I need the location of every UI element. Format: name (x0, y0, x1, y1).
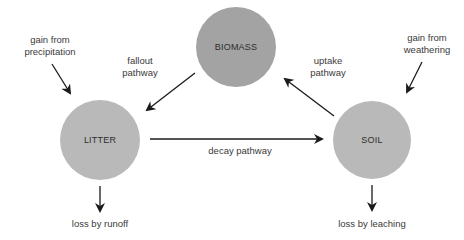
precipitation-arrow (52, 64, 70, 93)
weathering-arrow (407, 62, 422, 92)
litter-label: LITTER (84, 135, 116, 145)
soil-label: SOIL (361, 135, 382, 145)
uptake-pathway-label: uptake pathway (298, 55, 358, 79)
litter-node: LITTER (60, 100, 140, 180)
decay-pathway-label: decay pathway (190, 145, 290, 157)
weathering-input-label: gain from weathering (392, 32, 462, 56)
fallout-pathway-label: fallout pathway (110, 55, 170, 79)
leaching-output-label: loss by leaching (322, 218, 422, 230)
biomass-node: BIOMASS (196, 7, 276, 87)
soil-node: SOIL (333, 101, 411, 179)
uptake-arrow (285, 79, 334, 116)
biomass-label: BIOMASS (215, 42, 257, 52)
runoff-output-label: loss by runoff (55, 218, 145, 230)
precipitation-input-label: gain from precipitation (10, 34, 90, 58)
